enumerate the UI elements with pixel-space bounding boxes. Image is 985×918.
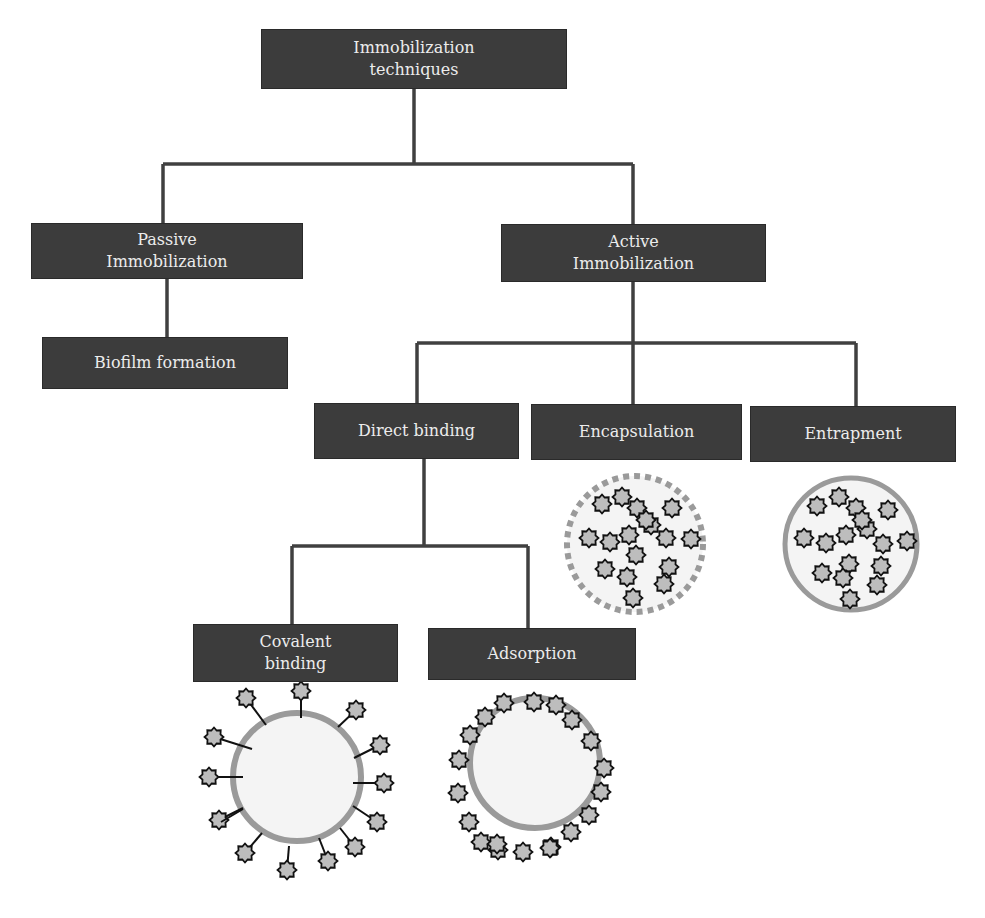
immobilized-cell-icon	[563, 711, 582, 730]
node-encapsulation-line-1: Encapsulation	[579, 421, 694, 443]
node-active-line-2: Immobilization	[573, 253, 694, 275]
immobilized-cell-icon	[624, 589, 643, 608]
immobilized-cell-icon	[476, 708, 495, 727]
immobilized-cell-icon	[236, 844, 255, 863]
immobilized-cell-icon	[237, 689, 256, 708]
immobilized-cell-icon	[368, 813, 387, 832]
immobilized-cell-icon	[601, 533, 620, 552]
immobilized-cell-icon	[596, 560, 615, 579]
immobilized-cell-icon	[541, 839, 560, 858]
immobilized-cell-icon	[872, 557, 891, 576]
node-entrapment-line-1: Entrapment	[804, 423, 901, 445]
immobilized-cell-icon	[817, 534, 836, 553]
immobilized-cell-icon	[837, 526, 856, 545]
immobilized-cell-icon	[682, 530, 701, 549]
immobilized-cell-icon	[841, 590, 860, 609]
immobilized-cell-icon	[830, 488, 849, 507]
immobilized-cell-icon	[278, 861, 297, 880]
immobilized-cell-icon	[808, 497, 827, 516]
immobilized-cell-icon	[461, 726, 480, 745]
immobilized-cell-icon	[495, 694, 514, 713]
immobilized-cell-icon	[460, 813, 479, 832]
node-active-line-1: Active	[608, 231, 659, 253]
immobilized-cell-icon	[375, 774, 394, 793]
immobilization-diagram: Immobilization techniques Passive Immobi…	[0, 0, 985, 918]
immobilized-cell-icon	[371, 736, 390, 755]
node-root-line-2: techniques	[370, 59, 459, 81]
immobilized-cell-icon	[562, 823, 581, 842]
immobilized-cell-icon	[853, 511, 872, 530]
immobilized-cell-icon	[200, 768, 219, 787]
immobilized-cell-icon	[795, 529, 814, 548]
node-direct-binding: Direct binding	[314, 403, 519, 459]
immobilized-cell-icon	[347, 701, 366, 720]
node-covalent-line-1: Covalent	[260, 631, 332, 653]
node-biofilm-line-1: Biofilm formation	[94, 352, 236, 374]
immobilized-cell-icon	[292, 682, 311, 701]
node-root-line-1: Immobilization	[353, 37, 474, 59]
immobilized-cell-icon	[472, 833, 491, 852]
node-active-immobilization: Active Immobilization	[501, 224, 766, 282]
immobilized-cell-icon	[834, 569, 853, 588]
node-direct-line-1: Direct binding	[358, 420, 475, 442]
immobilized-cell-icon	[547, 696, 566, 715]
node-covalent-binding: Covalent binding	[193, 624, 398, 682]
immobilized-cell-icon	[592, 783, 611, 802]
immobilized-cell-icon	[613, 488, 632, 507]
immobilized-cell-icon	[868, 576, 887, 595]
immobilized-cell-icon	[898, 532, 917, 551]
node-root: Immobilization techniques	[261, 29, 567, 89]
immobilized-cell-icon	[637, 511, 656, 530]
immobilized-cell-icon	[580, 529, 599, 548]
immobilized-cell-icon	[319, 852, 338, 871]
immobilized-cell-icon	[525, 693, 544, 712]
covalent-bead	[233, 713, 361, 841]
node-adsorption-line-1: Adsorption	[487, 643, 576, 665]
node-passive-line-1: Passive	[137, 229, 197, 251]
immobilized-cell-icon	[655, 575, 674, 594]
immobilized-cell-icon	[595, 759, 614, 778]
immobilized-cell-icon	[593, 495, 612, 514]
immobilized-cell-icon	[879, 501, 898, 520]
immobilized-cell-icon	[620, 526, 639, 545]
immobilized-cell-icon	[582, 732, 601, 751]
node-adsorption: Adsorption	[428, 628, 636, 680]
node-entrapment: Entrapment	[750, 406, 956, 462]
node-covalent-line-2: binding	[265, 653, 327, 675]
immobilized-cell-icon	[660, 558, 679, 577]
immobilized-cell-icon	[488, 835, 507, 854]
immobilized-cell-icon	[663, 499, 682, 518]
immobilized-cell-icon	[813, 564, 832, 583]
immobilized-cell-icon	[874, 535, 893, 554]
immobilized-cell-icon	[514, 843, 533, 862]
immobilized-cell-icon	[627, 546, 646, 565]
immobilized-cell-icon	[580, 806, 599, 825]
node-passive-immobilization: Passive Immobilization	[31, 223, 303, 279]
immobilized-cell-icon	[657, 529, 676, 548]
immobilized-cell-icon	[205, 728, 224, 747]
immobilized-cell-icon	[618, 568, 637, 587]
immobilized-cell-icon	[346, 838, 365, 857]
node-passive-line-2: Immobilization	[106, 251, 227, 273]
node-biofilm-formation: Biofilm formation	[42, 337, 288, 389]
immobilized-cell-icon	[450, 751, 469, 770]
immobilized-cell-icon	[449, 784, 468, 803]
node-encapsulation: Encapsulation	[531, 404, 742, 460]
